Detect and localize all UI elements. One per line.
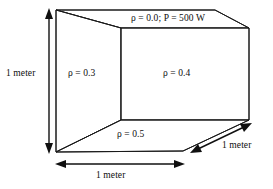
face-label-bottom: ρ = 0.5 xyxy=(117,129,144,139)
dimension-label-height: 1 meter xyxy=(6,68,35,78)
dimension-label-width: 1 meter xyxy=(96,170,125,180)
figure-container: ρ = 0.0; P = 500 W ρ = 0.3 ρ = 0.4 ρ = 0… xyxy=(0,0,273,189)
dimension-label-depth: 1 meter xyxy=(222,140,251,150)
face-label-top: ρ = 0.0; P = 500 W xyxy=(131,13,205,23)
cube-diagram xyxy=(0,0,273,189)
face-label-right: ρ = 0.4 xyxy=(163,68,190,78)
dimension-arrow-height xyxy=(45,8,53,154)
face-label-left: ρ = 0.3 xyxy=(68,68,95,78)
dimension-arrow-width xyxy=(55,160,185,168)
